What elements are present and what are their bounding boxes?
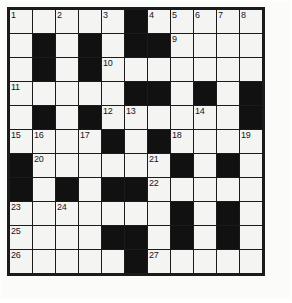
crossword-letter-cell[interactable] bbox=[79, 178, 102, 202]
crossword-letter-cell[interactable]: 20 bbox=[33, 154, 56, 178]
crossword-letter-cell[interactable]: 14 bbox=[194, 106, 217, 130]
crossword-letter-cell[interactable] bbox=[217, 250, 240, 274]
crossword-letter-cell[interactable]: 6 bbox=[194, 10, 217, 34]
crossword-letter-cell[interactable]: 17 bbox=[79, 130, 102, 154]
crossword-block-cell bbox=[33, 34, 56, 58]
crossword-letter-cell[interactable] bbox=[125, 58, 148, 82]
crossword-letter-cell[interactable] bbox=[125, 202, 148, 226]
crossword-row: 9 bbox=[10, 34, 263, 58]
crossword-letter-cell[interactable]: 27 bbox=[148, 250, 171, 274]
crossword-letter-cell[interactable] bbox=[240, 202, 263, 226]
crossword-letter-cell[interactable] bbox=[56, 250, 79, 274]
crossword-letter-cell[interactable] bbox=[148, 106, 171, 130]
crossword-letter-cell[interactable]: 19 bbox=[240, 130, 263, 154]
crossword-letter-cell[interactable] bbox=[217, 130, 240, 154]
crossword-letter-cell[interactable] bbox=[217, 106, 240, 130]
crossword-letter-cell[interactable] bbox=[217, 82, 240, 106]
crossword-letter-cell[interactable]: 8 bbox=[240, 10, 263, 34]
crossword-letter-cell[interactable] bbox=[194, 178, 217, 202]
crossword-letter-cell[interactable] bbox=[33, 10, 56, 34]
crossword-block-cell bbox=[79, 58, 102, 82]
crossword-letter-cell[interactable]: 11 bbox=[10, 82, 33, 106]
crossword-letter-cell[interactable]: 23 bbox=[10, 202, 33, 226]
crossword-letter-cell[interactable] bbox=[194, 202, 217, 226]
crossword-grid[interactable]: 1234567891011121314151617181920212223242… bbox=[9, 9, 263, 274]
crossword-letter-cell[interactable]: 12 bbox=[102, 106, 125, 130]
crossword-letter-cell[interactable] bbox=[102, 154, 125, 178]
crossword-letter-cell[interactable]: 4 bbox=[148, 10, 171, 34]
crossword-letter-cell[interactable] bbox=[171, 106, 194, 130]
crossword-letter-cell[interactable]: 10 bbox=[102, 58, 125, 82]
cell-number: 12 bbox=[103, 106, 112, 116]
crossword-letter-cell[interactable] bbox=[56, 154, 79, 178]
crossword-letter-cell[interactable] bbox=[10, 58, 33, 82]
crossword-letter-cell[interactable] bbox=[240, 154, 263, 178]
crossword-letter-cell[interactable] bbox=[217, 58, 240, 82]
crossword-letter-cell[interactable] bbox=[240, 34, 263, 58]
crossword-letter-cell[interactable] bbox=[33, 226, 56, 250]
crossword-letter-cell[interactable] bbox=[56, 130, 79, 154]
crossword-letter-cell[interactable] bbox=[33, 178, 56, 202]
crossword-letter-cell[interactable] bbox=[240, 58, 263, 82]
crossword-letter-cell[interactable]: 9 bbox=[171, 34, 194, 58]
crossword-letter-cell[interactable] bbox=[217, 178, 240, 202]
crossword-letter-cell[interactable] bbox=[10, 106, 33, 130]
crossword-letter-cell[interactable] bbox=[217, 34, 240, 58]
crossword-letter-cell[interactable]: 1 bbox=[10, 10, 33, 34]
crossword-letter-cell[interactable]: 21 bbox=[148, 154, 171, 178]
crossword-letter-cell[interactable] bbox=[56, 106, 79, 130]
crossword-letter-cell[interactable] bbox=[148, 226, 171, 250]
crossword-letter-cell[interactable] bbox=[194, 130, 217, 154]
crossword-letter-cell[interactable]: 26 bbox=[10, 250, 33, 274]
crossword-row: 25 bbox=[10, 226, 263, 250]
crossword-letter-cell[interactable]: 5 bbox=[171, 10, 194, 34]
crossword-letter-cell[interactable] bbox=[33, 82, 56, 106]
crossword-letter-cell[interactable]: 15 bbox=[10, 130, 33, 154]
crossword-letter-cell[interactable] bbox=[125, 154, 148, 178]
crossword-letter-cell[interactable] bbox=[79, 202, 102, 226]
crossword-letter-cell[interactable] bbox=[56, 226, 79, 250]
crossword-block-cell bbox=[125, 34, 148, 58]
crossword-puzzle-frame: 1234567891011121314151617181920212223242… bbox=[0, 0, 292, 303]
crossword-letter-cell[interactable] bbox=[102, 34, 125, 58]
crossword-letter-cell[interactable] bbox=[102, 250, 125, 274]
crossword-letter-cell[interactable]: 18 bbox=[171, 130, 194, 154]
crossword-letter-cell[interactable] bbox=[171, 82, 194, 106]
crossword-letter-cell[interactable] bbox=[194, 250, 217, 274]
crossword-letter-cell[interactable] bbox=[171, 58, 194, 82]
crossword-letter-cell[interactable] bbox=[79, 154, 102, 178]
crossword-letter-cell[interactable]: 25 bbox=[10, 226, 33, 250]
crossword-letter-cell[interactable] bbox=[194, 154, 217, 178]
crossword-letter-cell[interactable] bbox=[194, 226, 217, 250]
crossword-letter-cell[interactable] bbox=[148, 202, 171, 226]
crossword-letter-cell[interactable]: 24 bbox=[56, 202, 79, 226]
crossword-letter-cell[interactable] bbox=[171, 178, 194, 202]
crossword-letter-cell[interactable]: 13 bbox=[125, 106, 148, 130]
crossword-letter-cell[interactable]: 2 bbox=[56, 10, 79, 34]
crossword-letter-cell[interactable] bbox=[33, 202, 56, 226]
crossword-letter-cell[interactable] bbox=[240, 226, 263, 250]
crossword-letter-cell[interactable] bbox=[56, 82, 79, 106]
crossword-letter-cell[interactable] bbox=[194, 34, 217, 58]
crossword-letter-cell[interactable] bbox=[79, 226, 102, 250]
crossword-letter-cell[interactable]: 16 bbox=[33, 130, 56, 154]
crossword-letter-cell[interactable] bbox=[240, 250, 263, 274]
crossword-letter-cell[interactable] bbox=[125, 130, 148, 154]
crossword-letter-cell[interactable]: 3 bbox=[102, 10, 125, 34]
crossword-letter-cell[interactable] bbox=[79, 250, 102, 274]
crossword-letter-cell[interactable] bbox=[171, 250, 194, 274]
crossword-letter-cell[interactable] bbox=[148, 58, 171, 82]
crossword-letter-cell[interactable] bbox=[56, 58, 79, 82]
crossword-letter-cell[interactable]: 7 bbox=[217, 10, 240, 34]
crossword-letter-cell[interactable] bbox=[102, 82, 125, 106]
crossword-letter-cell[interactable] bbox=[79, 82, 102, 106]
crossword-letter-cell[interactable] bbox=[33, 250, 56, 274]
crossword-letter-cell[interactable] bbox=[79, 10, 102, 34]
crossword-letter-cell[interactable] bbox=[56, 34, 79, 58]
crossword-block-cell bbox=[125, 82, 148, 106]
crossword-letter-cell[interactable] bbox=[10, 34, 33, 58]
crossword-letter-cell[interactable] bbox=[102, 202, 125, 226]
crossword-letter-cell[interactable]: 22 bbox=[148, 178, 171, 202]
crossword-letter-cell[interactable] bbox=[194, 58, 217, 82]
crossword-letter-cell[interactable] bbox=[240, 178, 263, 202]
